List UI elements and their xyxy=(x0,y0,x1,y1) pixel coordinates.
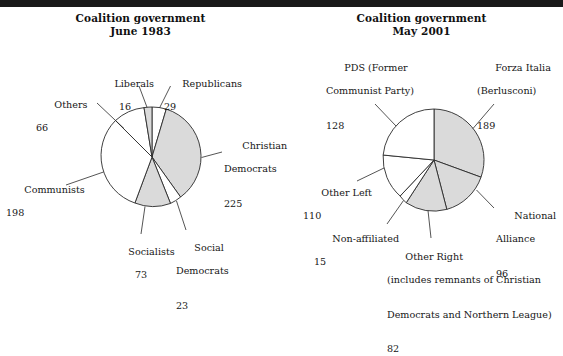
label-liberals-name: Liberals xyxy=(114,78,154,89)
label-other-left-name: Other Left xyxy=(321,187,372,198)
leader-social-democrats xyxy=(177,201,187,230)
label-other-right-name2: (includes remnants of Christian xyxy=(387,274,563,286)
label-social-democrats: Social Democrats 23 xyxy=(176,230,246,334)
label-communists-value: 198 xyxy=(6,207,68,219)
label-republicans-name: Republicans xyxy=(182,78,242,89)
label-christian-democrats-name2: Democrats xyxy=(224,163,282,175)
label-communists-name: Communists xyxy=(24,184,84,195)
label-christian-democrats-value: 225 xyxy=(224,198,282,210)
chart-panel-1983: Coalition government June 1983 xyxy=(0,0,281,305)
label-social-democrats-value: 23 xyxy=(176,300,246,312)
label-forza-italia-value: 189 xyxy=(477,120,557,132)
label-republicans: Republicans 29 xyxy=(164,66,244,136)
label-social-democrats-name: Social xyxy=(194,242,224,253)
label-social-democrats-name2: Democrats xyxy=(176,265,246,277)
label-pds-name2: Communist Party) xyxy=(326,85,436,97)
label-other-left-value: 110 xyxy=(303,210,365,222)
leader-other-right xyxy=(428,211,431,239)
label-non-affiliated-value: 15 xyxy=(314,256,394,268)
label-forza-italia-name: Forza Italia xyxy=(495,62,551,73)
label-other-right-name: Other Right xyxy=(405,251,463,262)
label-christian-democrats: Christian Democrats 225 xyxy=(224,128,282,232)
label-republicans-value: 29 xyxy=(164,101,244,113)
label-others: Others 66 xyxy=(36,87,94,157)
chart-panel-2001: Coalition government May 2001 xyxy=(281,0,562,305)
label-others-value: 66 xyxy=(36,122,94,134)
label-other-right: Other Right (includes remnants of Christ… xyxy=(387,239,563,356)
leader-socialists xyxy=(141,207,145,235)
label-socialists-name: Socialists xyxy=(128,246,174,257)
label-other-right-name3: Democrats and Northern League) xyxy=(387,309,563,321)
label-others-name: Others xyxy=(54,99,87,110)
label-pds-value: 128 xyxy=(326,120,436,132)
label-socialists: Socialists 73 xyxy=(110,234,172,304)
leader-christian-democrats xyxy=(202,152,223,158)
leader-national-alliance xyxy=(477,190,495,208)
label-socialists-value: 73 xyxy=(110,269,172,281)
label-communists: Communists 198 xyxy=(6,172,68,242)
label-pds-name: PDS (Former xyxy=(344,62,407,73)
label-forza-italia: Forza Italia (Berlusconi) 189 xyxy=(477,50,557,154)
label-non-affiliated: Non-affiliated 15 xyxy=(314,221,394,291)
label-liberals-value: 16 xyxy=(94,101,156,113)
label-liberals: Liberals 16 xyxy=(94,66,156,136)
label-national-alliance-name: National xyxy=(514,210,556,221)
label-forza-italia-name2: (Berlusconi) xyxy=(477,85,557,97)
label-other-right-value: 82 xyxy=(387,343,563,355)
label-pds: PDS (Former Communist Party) 128 xyxy=(326,50,436,154)
